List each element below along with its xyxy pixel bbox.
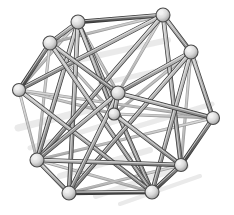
node-lower-right: [175, 159, 188, 172]
node-inner-lower: [108, 108, 120, 120]
wireframe-canvas: [0, 0, 234, 215]
node-upper-left: [43, 36, 57, 50]
node-top-right: [156, 8, 170, 22]
wireframe-figure: [0, 0, 234, 215]
node-lower-left: [30, 153, 44, 167]
strut: [69, 191, 153, 193]
node-inner-upper: [111, 86, 125, 100]
node-right: [207, 112, 220, 125]
node-bottom-right: [145, 185, 159, 199]
node-upper-right: [184, 45, 198, 59]
node-left: [13, 84, 26, 97]
node-top-left: [71, 15, 85, 29]
node-bottom-left: [62, 186, 76, 200]
